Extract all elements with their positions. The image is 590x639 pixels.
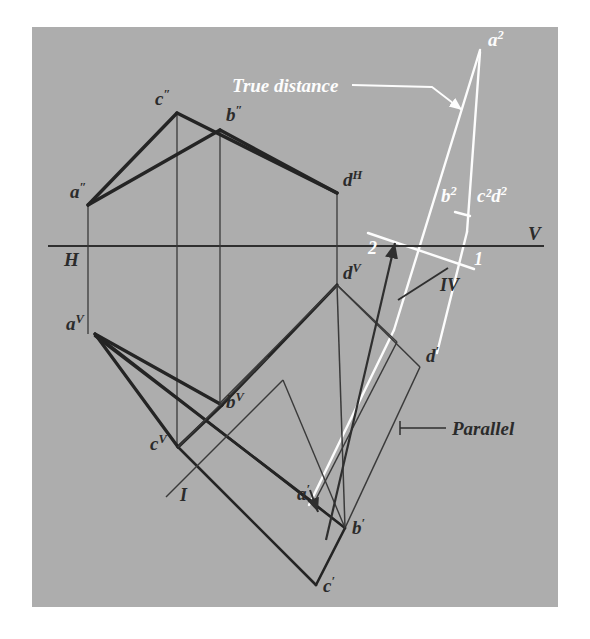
point-label-a-2: a2 xyxy=(488,28,504,50)
figure-root: True distance Parallel H V 2 1 I IV a″ c… xyxy=(0,0,590,639)
thin-cross-lines xyxy=(166,285,345,528)
reference-label-h: H xyxy=(63,249,80,270)
thin-line-bv-dv xyxy=(219,285,337,404)
top-view-outline xyxy=(88,113,337,205)
top-edge-a-c xyxy=(88,113,177,205)
parallel-label: Parallel xyxy=(451,418,515,439)
point-label-d-h: dH xyxy=(343,168,364,190)
technical-drawing-canvas: True distance Parallel H V 2 1 I IV a″ c… xyxy=(0,0,590,639)
parallel-leader xyxy=(400,421,446,435)
top-edge-b-d xyxy=(220,130,337,193)
fold-label-1: 1 xyxy=(474,249,483,269)
point-label-c-v: cV xyxy=(150,432,168,454)
point-label-a-h: a″ xyxy=(70,180,86,202)
point-label-b-v: bV xyxy=(226,390,246,412)
fold-label-I: I xyxy=(179,485,188,505)
true-distance-label: True distance xyxy=(232,75,339,96)
aux1-edge-dp-bp xyxy=(345,367,420,528)
true-distance-leader xyxy=(352,85,462,110)
oblique-edge-av-ap xyxy=(95,336,314,503)
reference-label-v: V xyxy=(528,223,542,244)
point-label-a-v: aV xyxy=(66,312,86,334)
aux1-edge-ap-up xyxy=(314,342,397,503)
point-label-b-2: b2 xyxy=(441,184,457,206)
point-label-c-prime: c′ xyxy=(323,574,335,596)
oblique-edge-cv-cp xyxy=(178,447,316,585)
point-label-b-h: b″ xyxy=(226,103,242,125)
point-label-c-h: c″ xyxy=(155,87,170,109)
thin-line-lower-band xyxy=(283,380,345,528)
point-label-b-prime: b′ xyxy=(352,516,365,538)
front-edge-a-b xyxy=(95,334,222,405)
white-projector-a-lower xyxy=(309,330,394,505)
white-projector-a xyxy=(394,50,480,330)
point-label-d-v: dV xyxy=(343,261,363,283)
point-label-d-prime: d′ xyxy=(426,344,439,366)
top-edge-a-b xyxy=(88,130,220,205)
aux1-edge-long-left xyxy=(337,285,397,342)
point-label-cd-2: c²d2 xyxy=(477,184,507,206)
fold-label-2: 2 xyxy=(367,238,377,258)
fold-label-IV: IV xyxy=(439,275,461,295)
